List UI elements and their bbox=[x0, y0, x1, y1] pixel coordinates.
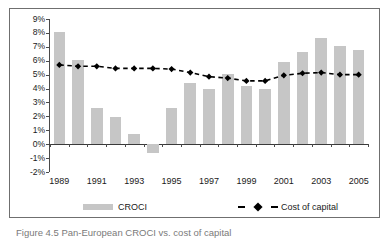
bar-1993 bbox=[128, 134, 140, 144]
y-axis-tick: 7% bbox=[15, 42, 45, 51]
y-axis-tick-mark bbox=[46, 130, 49, 131]
legend-label-croci: CROCI bbox=[118, 202, 147, 212]
x-axis-tick-2005: 2005 bbox=[349, 176, 369, 186]
bar-2002 bbox=[297, 52, 309, 144]
x-axis-tick-2003: 2003 bbox=[311, 176, 331, 186]
x-axis-tick-mark bbox=[293, 144, 294, 147]
x-axis-tick-mark bbox=[331, 144, 332, 147]
x-axis-tick-2001: 2001 bbox=[274, 176, 294, 186]
y-axis-tick-mark bbox=[46, 61, 49, 62]
x-axis-tick-1991: 1991 bbox=[87, 176, 107, 186]
chart-legend: CROCI Cost of capital bbox=[10, 191, 381, 218]
y-axis-tick: 3% bbox=[15, 98, 45, 107]
bar-2005 bbox=[353, 50, 365, 145]
x-axis-tick-mark bbox=[144, 144, 145, 147]
bar-1994 bbox=[147, 144, 159, 152]
legend-swatch-croci bbox=[83, 204, 113, 210]
bar-1992 bbox=[110, 117, 122, 144]
y-axis-tick: 0% bbox=[15, 140, 45, 149]
y-axis-tick-mark bbox=[46, 75, 49, 76]
y-axis-tick: 9% bbox=[15, 15, 45, 24]
bar-2000 bbox=[259, 89, 271, 145]
x-axis-tick-1997: 1997 bbox=[199, 176, 219, 186]
x-axis-tick-mark bbox=[50, 144, 51, 147]
legend-marker-cost-of-capital bbox=[238, 201, 278, 213]
x-axis-tick-mark bbox=[349, 144, 350, 147]
y-axis-tick: 1% bbox=[15, 126, 45, 135]
y-axis-tick-mark bbox=[46, 116, 49, 117]
y-axis-tick-mark bbox=[46, 144, 49, 145]
figure-root: 9%8%7%6%5%4%3%2%1%0%-1%-2% 1989199119931… bbox=[0, 0, 389, 238]
x-axis-tick-mark bbox=[368, 144, 369, 147]
bar-2004 bbox=[334, 46, 346, 144]
x-axis-tick-mark bbox=[274, 144, 275, 147]
x-axis-tick-mark bbox=[181, 144, 182, 147]
bar-2001 bbox=[278, 62, 290, 144]
legend-label-cost-of-capital: Cost of capital bbox=[281, 202, 338, 212]
y-axis-tick: 2% bbox=[15, 112, 45, 121]
bar-1997 bbox=[203, 89, 215, 145]
x-axis-tick-mark bbox=[200, 144, 201, 147]
y-axis-tick-mark bbox=[46, 89, 49, 90]
y-axis-tick-mark bbox=[46, 102, 49, 103]
y-axis-tick: -2% bbox=[15, 168, 45, 177]
chart-frame: 9%8%7%6%5%4%3%2%1%0%-1%-2% 1989199119931… bbox=[9, 8, 380, 218]
x-axis-tick-mark bbox=[237, 144, 238, 147]
bar-1990 bbox=[72, 60, 84, 144]
bar-1999 bbox=[241, 86, 253, 144]
bar-1995 bbox=[166, 108, 178, 144]
x-axis-tick-mark bbox=[106, 144, 107, 147]
y-axis-tick: 5% bbox=[15, 70, 45, 79]
y-axis-tick-labels: 9%8%7%6%5%4%3%2%1%0%-1%-2% bbox=[14, 9, 45, 191]
bar-1998 bbox=[222, 74, 234, 144]
x-axis-tick-1993: 1993 bbox=[124, 176, 144, 186]
x-axis-tick-1995: 1995 bbox=[162, 176, 182, 186]
x-axis-tick-mark bbox=[87, 144, 88, 147]
plot-area bbox=[50, 19, 368, 172]
y-axis-tick: 8% bbox=[15, 28, 45, 37]
figure-caption: Figure 4.5 Pan-European CROCI vs. cost o… bbox=[16, 227, 376, 238]
y-axis-tick-mark bbox=[46, 158, 49, 159]
x-axis-tick-mark bbox=[218, 144, 219, 147]
y-axis-tick: -1% bbox=[15, 154, 45, 163]
x-axis-tick-mark bbox=[162, 144, 163, 147]
x-axis-tick-mark bbox=[125, 144, 126, 147]
x-axis-tick-mark bbox=[256, 144, 257, 147]
x-axis-tick-mark bbox=[69, 144, 70, 147]
bar-1996 bbox=[184, 83, 196, 144]
y-axis-tick-mark bbox=[46, 19, 49, 20]
bar-2003 bbox=[315, 38, 327, 144]
x-axis-tick-1999: 1999 bbox=[236, 176, 256, 186]
y-axis-tick-mark bbox=[46, 33, 49, 34]
y-axis-tick: 4% bbox=[15, 84, 45, 93]
bar-1991 bbox=[91, 108, 103, 144]
x-axis-tick-mark bbox=[312, 144, 313, 147]
y-axis-tick-mark bbox=[46, 47, 49, 48]
y-axis-tick: 6% bbox=[15, 56, 45, 65]
y-axis-tick-mark bbox=[46, 172, 49, 173]
bar-1989 bbox=[54, 32, 66, 145]
x-axis-tick-1989: 1989 bbox=[49, 176, 69, 186]
plot-region: 9%8%7%6%5%4%3%2%1%0%-1%-2% 1989199119931… bbox=[10, 9, 381, 191]
